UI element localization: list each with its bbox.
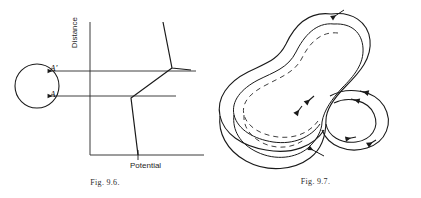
ray-label-a: A: [50, 89, 56, 99]
sink-sheet-leader-line: [309, 148, 324, 156]
potential-curve-lower: [131, 68, 172, 155]
source-sheet-top-fold-inner: [322, 24, 363, 122]
source-sheet-top-fold: [326, 14, 370, 120]
sheet-flow-arrow-lower: [296, 106, 302, 114]
distance-axis-label: Distance: [70, 17, 79, 48]
vortex-outer-loop: [322, 91, 388, 150]
potential-axis-label: Potential: [130, 161, 161, 170]
figure-9-7-caption: Fig. 9.7.: [210, 177, 421, 186]
figure-9-7: Source sheet Sink sheet P + + + – – – Fi…: [210, 0, 421, 198]
figure-9-7-drawing: [210, 0, 421, 198]
figure-9-6-caption: Fig. 9.6.: [0, 178, 210, 187]
ray-label-a-prime: A': [50, 63, 57, 73]
figure-9-6: Distance Potential A' A Fig. 9.6.: [0, 0, 210, 198]
sheet-flow-arrow-upper: [306, 96, 314, 103]
potential-curve-upper: [163, 22, 191, 70]
vortex-inner-loop: [326, 100, 376, 143]
sheet-median-dashed-line: [243, 33, 338, 138]
vortex-inner-arrow-bottom: [346, 137, 356, 139]
source-sheet-inner-edge: [233, 24, 334, 143]
figure-9-6-drawing: [0, 0, 210, 198]
scanned-figure-page: Distance Potential A' A Fig. 9.6.: [0, 0, 421, 198]
